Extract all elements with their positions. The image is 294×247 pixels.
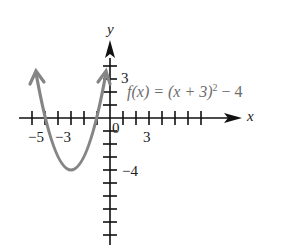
tick-label-y-neg4: −4 xyxy=(122,164,138,179)
function-label-lhs: f(x) = (x + 3) xyxy=(127,83,213,100)
parabola-curve xyxy=(30,71,110,170)
y-axis-arrow-icon xyxy=(105,40,115,58)
y-axis-label: y xyxy=(107,22,114,37)
function-label: f(x) = (x + 3)2 − 4 xyxy=(127,84,243,100)
function-label-exponent: 2 xyxy=(213,82,218,93)
tick-label-x-neg5: −5 xyxy=(28,130,44,145)
x-axis-label: x xyxy=(247,109,254,124)
x-axis xyxy=(19,111,242,125)
tick-label-x-neg3: −3 xyxy=(55,130,71,145)
tick-label-origin-0: 0 xyxy=(112,121,120,136)
tick-label-x-3: 3 xyxy=(143,130,151,145)
function-label-rhs: − 4 xyxy=(218,83,243,100)
